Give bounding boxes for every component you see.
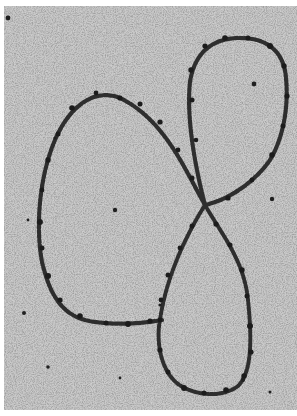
micrograph-frame xyxy=(0,0,297,416)
micrograph-image xyxy=(4,6,297,410)
